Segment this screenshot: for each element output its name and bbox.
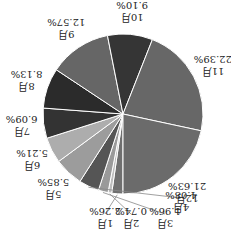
value-label-5: 5.85% (37, 177, 69, 188)
category-label-12: 12月 (176, 193, 199, 204)
category-label-1: 1月 (97, 218, 113, 229)
value-label-10: 9.10% (116, 0, 148, 11)
category-label-7: 7月 (14, 126, 30, 137)
value-label-7: 6.09% (6, 114, 38, 125)
value-label-8: 8.13% (11, 69, 43, 80)
category-label-8: 8月 (18, 81, 34, 92)
category-label-2: 2月 (123, 218, 139, 229)
category-label-11: 11月 (202, 66, 225, 77)
category-label-10: 10月 (121, 12, 144, 23)
category-label-3: 3月 (157, 218, 173, 229)
value-label-11: 22.39% (194, 54, 231, 65)
value-label-6: 5.21% (16, 148, 48, 159)
category-label-5: 5月 (45, 189, 61, 200)
value-label-2: 0.74% (115, 206, 147, 217)
category-label-6: 6月 (24, 160, 40, 171)
value-label-9: 12.57% (47, 17, 85, 28)
category-label-9: 9月 (58, 29, 74, 40)
pie-chart: 1月2.26%2月0.74%3月1.96%4月4.08%5月5.85%6月5.2… (0, 0, 231, 244)
value-label-12: 21.63% (168, 181, 206, 192)
